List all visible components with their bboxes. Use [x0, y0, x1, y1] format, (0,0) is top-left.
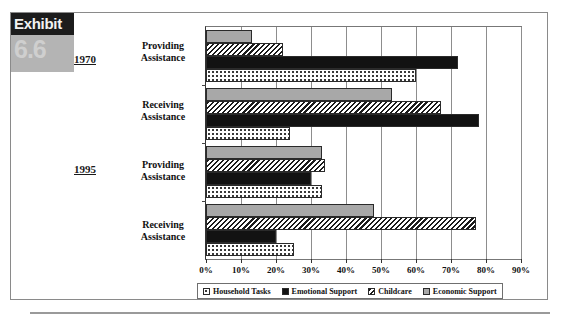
- bar-emotional-group-0: [206, 56, 458, 69]
- category-label-line2: Assistance: [126, 52, 200, 64]
- tick-label-50%: 50%: [372, 265, 390, 275]
- category-label-line2: Assistance: [126, 231, 200, 243]
- legend-item-household[interactable]: Household Tasks: [203, 287, 271, 296]
- tick-30%: [311, 259, 312, 263]
- bar-childcare-group-3: [206, 217, 476, 230]
- bottom-rule: [30, 312, 550, 314]
- bar-economic-group-1: [206, 88, 392, 101]
- economic-swatch: [423, 288, 430, 295]
- tick-40%: [346, 259, 347, 263]
- tick-60%: [416, 259, 417, 263]
- legend-item-childcare[interactable]: Childcare: [368, 287, 412, 296]
- tick-0%: [206, 259, 207, 263]
- legend-label-childcare: Childcare: [378, 287, 412, 296]
- category-label-line1: Receiving: [126, 219, 200, 231]
- tick-label-30%: 30%: [302, 265, 320, 275]
- exhibit-word: Exhibit: [14, 15, 62, 33]
- bar-household-group-3: [206, 243, 294, 256]
- tick-label-70%: 70%: [442, 265, 460, 275]
- tick-label-20%: 20%: [267, 265, 285, 275]
- legend-label-economic: Economic Support: [433, 287, 497, 296]
- bar-economic-group-3: [206, 204, 374, 217]
- tick-50%: [381, 259, 382, 263]
- group-separator-1: [202, 85, 206, 86]
- tick-80%: [486, 259, 487, 263]
- tick-10%: [241, 259, 242, 263]
- bar-childcare-group-1: [206, 101, 441, 114]
- gridline-80%: [486, 27, 487, 259]
- group-separator-2: [202, 143, 206, 144]
- bar-household-group-1: [206, 127, 290, 140]
- childcare-swatch: [368, 288, 375, 295]
- legend-item-emotional[interactable]: Emotional Support: [282, 287, 358, 296]
- year-label-1970: 1970: [74, 53, 96, 65]
- bar-economic-group-0: [206, 30, 252, 43]
- tick-90%: [521, 259, 522, 263]
- legend-label-emotional: Emotional Support: [292, 287, 358, 296]
- category-label-1995-providing: Providing Assistance: [126, 159, 200, 183]
- exhibit-badge: Exhibit 6.6: [11, 13, 74, 72]
- gridline-90%: [521, 27, 522, 259]
- tick-label-0%: 0%: [199, 265, 213, 275]
- chart-legend: Household TasksEmotional SupportChildcar…: [197, 283, 503, 299]
- exhibit-number: 6.6: [14, 34, 46, 64]
- category-label-1970-receiving: Receiving Assistance: [126, 99, 200, 123]
- emotional-swatch: [282, 288, 289, 295]
- category-label-line2: Assistance: [126, 171, 200, 183]
- bar-childcare-group-2: [206, 159, 325, 172]
- household-swatch: [203, 288, 210, 295]
- category-label-line1: Providing: [126, 159, 200, 171]
- tick-label-60%: 60%: [407, 265, 425, 275]
- tick-70%: [451, 259, 452, 263]
- legend-label-household: Household Tasks: [213, 287, 271, 296]
- category-label-line2: Assistance: [126, 111, 200, 123]
- tick-label-40%: 40%: [337, 265, 355, 275]
- bar-emotional-group-1: [206, 114, 479, 127]
- bar-emotional-group-2: [206, 172, 311, 185]
- category-label-line1: Receiving: [126, 99, 200, 111]
- tick-label-80%: 80%: [477, 265, 495, 275]
- bar-household-group-0: [206, 69, 416, 82]
- bar-emotional-group-3: [206, 230, 276, 243]
- bar-economic-group-2: [206, 146, 322, 159]
- tick-20%: [276, 259, 277, 263]
- tick-label-10%: 10%: [232, 265, 250, 275]
- legend-item-economic[interactable]: Economic Support: [423, 287, 497, 296]
- bar-childcare-group-0: [206, 43, 283, 56]
- year-label-1995: 1995: [74, 163, 96, 175]
- category-label-1995-receiving: Receiving Assistance: [126, 219, 200, 243]
- chart-plot-area: 0%10%20%30%40%50%60%70%80%90%: [205, 26, 522, 260]
- bar-household-group-2: [206, 185, 322, 198]
- group-separator-3: [202, 201, 206, 202]
- exhibit-page: Exhibit 6.6 1970 1995 Providing Assistan…: [0, 0, 561, 322]
- category-label-1970-providing: Providing Assistance: [126, 40, 200, 64]
- category-label-line1: Providing: [126, 40, 200, 52]
- tick-label-90%: 90%: [512, 265, 530, 275]
